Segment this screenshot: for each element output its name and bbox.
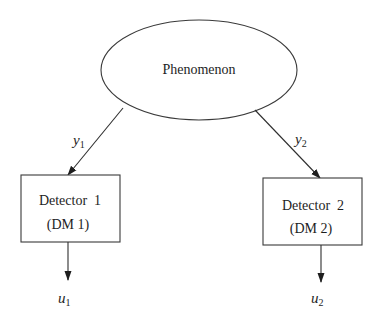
edge-u1: u1 <box>58 242 71 308</box>
edge-label-y2: y2 <box>293 131 307 149</box>
edge-u2: u2 <box>311 245 324 308</box>
phenomenon-node: Phenomenon <box>101 20 297 120</box>
detector-1-title: Detector 1 <box>39 193 101 208</box>
detector-2-title: Detector 2 <box>282 198 344 213</box>
arrow-y2 <box>255 110 320 178</box>
detector-1-node: Detector 1 (DM 1) <box>21 175 120 242</box>
edge-y1: y1 <box>68 108 123 175</box>
edge-label-y1: y1 <box>71 132 85 150</box>
detector-2-node: Detector 2 (DM 2) <box>263 178 362 245</box>
detector-2-subtitle: (DM 2) <box>290 221 333 237</box>
decision-diagram: Phenomenon y1 y2 Detector 1 (DM 1) Detec… <box>0 0 380 321</box>
edge-y2: y2 <box>255 110 320 178</box>
phenomenon-label: Phenomenon <box>162 62 235 77</box>
output-label-u2: u2 <box>311 290 324 308</box>
output-label-u1: u1 <box>58 290 71 308</box>
detector-1-subtitle: (DM 1) <box>47 217 90 233</box>
